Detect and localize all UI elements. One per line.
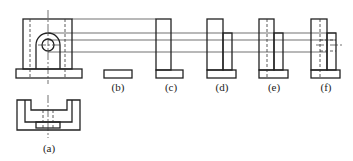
top-view [17, 95, 80, 138]
projection-lines [48, 19, 336, 52]
view-e [259, 19, 288, 78]
view-d [207, 19, 236, 78]
label-c: (c) [165, 81, 178, 94]
view-c [156, 19, 183, 78]
front-view [16, 10, 82, 84]
view-b [104, 70, 132, 78]
label-b: (b) [112, 81, 125, 94]
label-d: (d) [216, 81, 229, 94]
projection-diagram: (a) (b) (c) (d) (e) (f) [0, 0, 353, 161]
label-e: (e) [268, 81, 281, 94]
label-a: (a) [43, 142, 56, 155]
label-f: (f) [321, 81, 332, 94]
view-f [311, 19, 343, 78]
